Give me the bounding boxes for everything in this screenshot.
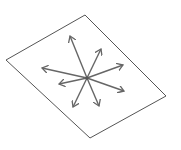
arrow-5 (59, 78, 87, 84)
center-point (85, 76, 88, 79)
arrow-7 (73, 78, 87, 107)
radiating-arrows (42, 36, 124, 107)
diagram-canvas (0, 0, 181, 150)
arrow-1 (70, 36, 87, 78)
arrow-3 (42, 68, 87, 78)
arrow-6 (87, 78, 124, 91)
